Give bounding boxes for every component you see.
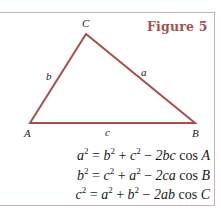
side-label-a: a <box>141 66 147 78</box>
equation-2: b2 = c2 + a2 − 2ca cos B <box>60 166 210 186</box>
vertex-label-c: C <box>82 17 89 29</box>
side-label-c: c <box>105 126 110 138</box>
equation-1: a2 = b2 + c2 − 2bc cos A <box>60 146 210 166</box>
vertex-label-a: A <box>24 127 31 139</box>
equation-3: c2 = a2 + b2 − 2ab cos C <box>60 185 210 205</box>
vertex-label-b: B <box>192 127 199 139</box>
triangle-abc <box>30 34 195 123</box>
side-label-b: b <box>46 70 52 82</box>
law-of-cosines-equations: a2 = b2 + c2 − 2bc cos A b2 = c2 + a2 − … <box>60 146 210 205</box>
